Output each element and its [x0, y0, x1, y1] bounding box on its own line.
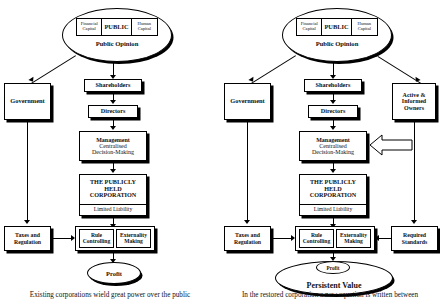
public-cell: PUBLIC — [102, 19, 131, 35]
directors-label: Directors — [101, 108, 126, 115]
arrowhead-standards-to-rules — [375, 235, 379, 241]
edge-standards-to-rules — [379, 238, 391, 239]
edge-public-to-government-restored — [246, 55, 296, 87]
externality-making-box-restored: Externality Making — [336, 229, 371, 248]
limited-liability-footer-restored: Limited Liability — [300, 204, 366, 215]
arrowhead-shareholders-to-directors — [110, 100, 116, 104]
public-cell-restored: PUBLIC — [322, 19, 351, 35]
human-capital-line2-restored: Capital — [358, 27, 371, 32]
financial-capital-line2: Capital — [83, 27, 96, 32]
management-box-restored: Management Centralised Decision-Making — [299, 131, 367, 161]
government-label-restored: Government — [230, 98, 264, 105]
management-box: Management Centralised Decision-Making — [79, 131, 147, 161]
profit-ellipse-restored: Profit — [316, 261, 350, 274]
externality-making-box: Externality Making — [116, 229, 151, 248]
directors-label-restored: Directors — [321, 108, 346, 115]
directors-box-restored: Directors — [308, 105, 358, 118]
panel-restored-corporation: Financial Capital PUBLIC Human Capital P… — [220, 0, 440, 306]
caption-restored: In the restored corporation a new equati… — [221, 291, 439, 301]
public-opinion-label: Public Opinion — [62, 40, 172, 47]
standards-line2: Standards — [402, 239, 427, 245]
figure-root: Financial Capital PUBLIC Human Capital P… — [0, 0, 440, 306]
arrowhead-shareholders-to-directors-restored — [330, 100, 336, 104]
taxes-regulation-box: Taxes and Regulation — [4, 226, 51, 251]
profit-label-restored: Profit — [327, 265, 340, 271]
capital-strip-restored: Financial Capital PUBLIC Human Capital — [296, 18, 378, 36]
government-box-restored: Government — [224, 83, 271, 120]
corporation-box-restored: THE PUBLICLY HELD CORPORATION Limited Li… — [299, 174, 367, 216]
taxes-line2-restored: Regulation — [234, 239, 261, 245]
corporation-line3-restored: CORPORATION — [310, 192, 357, 199]
profit-ellipse: Profit — [87, 262, 141, 284]
human-capital-cell-restored: Human Capital — [352, 19, 377, 35]
edge-owners-to-standards — [414, 120, 415, 222]
edge-government-to-taxes — [27, 120, 28, 222]
rule-line2: Controlling — [83, 239, 111, 245]
management-line3: Decision-Making — [92, 149, 134, 155]
edge-public-to-government — [26, 55, 76, 87]
caption-existing: Existing corporations wield great power … — [1, 291, 219, 301]
arrowhead-government-to-taxes — [24, 220, 30, 224]
shareholders-label-restored: Shareholders — [316, 82, 351, 89]
management-line3-restored: Decision-Making — [312, 149, 354, 155]
government-box: Government — [4, 83, 51, 120]
human-capital-line2: Capital — [138, 27, 151, 32]
arrowhead-management-to-corporation — [110, 169, 116, 173]
edge-taxes-to-rules-restored — [273, 238, 292, 239]
financial-capital-cell: Financial Capital — [77, 19, 102, 35]
corporation-box: THE PUBLICLY HELD CORPORATION Limited Li… — [79, 174, 147, 216]
financial-capital-cell-restored: Financial Capital — [297, 19, 322, 35]
arrowhead-directors-to-management — [110, 126, 116, 130]
externality-line2-restored: Making — [344, 239, 363, 245]
human-capital-cell: Human Capital — [132, 19, 157, 35]
arrowhead-owners-to-standards — [411, 220, 417, 224]
persistent-value-label: Persistent Value — [307, 281, 362, 290]
arrowhead-management-to-corporation-restored — [330, 169, 336, 173]
profit-label: Profit — [106, 270, 122, 277]
arrowhead-government-to-taxes-restored — [244, 220, 250, 224]
public-opinion-label-restored: Public Opinion — [282, 40, 392, 47]
shareholders-label: Shareholders — [96, 82, 131, 89]
public-label-restored: PUBLIC — [324, 24, 348, 30]
limited-liability-footer: Limited Liability — [80, 204, 146, 215]
edge-taxes-to-rules — [53, 238, 72, 239]
directors-box: Directors — [88, 105, 138, 118]
corporation-line3: CORPORATION — [90, 192, 137, 199]
rule-controlling-box: Rule Controlling — [79, 229, 114, 248]
financial-capital-line2-restored: Capital — [303, 27, 316, 32]
arrowhead-directors-to-management-restored — [330, 126, 336, 130]
public-label: PUBLIC — [104, 24, 128, 30]
government-label: Government — [10, 98, 44, 105]
shareholders-box-restored: Shareholders — [304, 79, 362, 92]
owners-to-management-block-arrow — [369, 131, 413, 159]
owners-line3: Owners — [404, 105, 424, 111]
externality-line2: Making — [124, 239, 143, 245]
capital-strip: Financial Capital PUBLIC Human Capital — [76, 18, 158, 36]
panel-existing-corporation: Financial Capital PUBLIC Human Capital P… — [0, 0, 220, 306]
edge-government-to-taxes-restored — [247, 120, 248, 222]
required-standards-box: Required Standards — [391, 226, 438, 251]
rule-line2-restored: Controlling — [303, 239, 331, 245]
taxes-regulation-box-restored: Taxes and Regulation — [224, 226, 271, 251]
active-informed-owners-box: Active & Informed Owners — [392, 83, 436, 120]
shareholders-box: Shareholders — [84, 79, 142, 92]
taxes-line2: Regulation — [14, 239, 41, 245]
rule-controlling-box-restored: Rule Controlling — [299, 229, 334, 248]
